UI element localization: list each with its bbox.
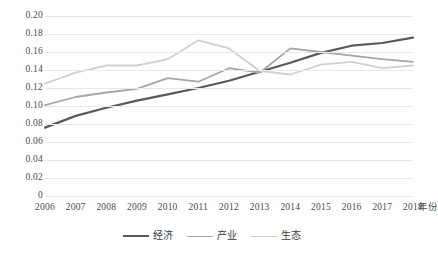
x-axis-tick-label: 2008	[96, 203, 116, 213]
x-axis-tick-label: 2007	[66, 203, 86, 213]
gridline	[45, 142, 413, 143]
x-axis-tick-label: 2016	[342, 203, 362, 213]
gridline	[45, 124, 413, 125]
y-axis-tick-label: 0.12	[3, 83, 43, 93]
legend-item[interactable]: 生态	[251, 231, 301, 241]
legend-label: 经济	[153, 231, 173, 241]
x-axis-tick-label: 2012	[219, 203, 239, 213]
gridline	[45, 70, 413, 71]
legend-swatch	[123, 235, 149, 237]
y-axis-tick-label: 0	[3, 191, 43, 201]
plot-area	[45, 16, 413, 196]
y-axis-tick-label: 0.18	[3, 29, 43, 39]
series-line	[45, 48, 413, 105]
gridline	[45, 34, 413, 35]
x-axis-tick-label: 2017	[372, 203, 392, 213]
y-axis-tick-label: 0.08	[3, 119, 43, 129]
legend-label: 产业	[217, 231, 237, 241]
y-axis: 0.200.180.160.140.120.100.080.060.040.02…	[0, 0, 43, 196]
x-axis-tick-label: 2015	[311, 203, 331, 213]
x-axis-tick-label: 2014	[280, 203, 300, 213]
x-axis-tick-label: 2009	[127, 203, 147, 213]
legend-swatch	[251, 236, 277, 237]
x-axis-tick-label: 2011	[189, 203, 208, 213]
gridline	[45, 88, 413, 89]
gridline	[45, 16, 413, 17]
gridline	[45, 178, 413, 179]
legend-item[interactable]: 产业	[187, 231, 237, 241]
legend: 经济产业生态	[0, 231, 423, 241]
y-axis-tick-label: 0.14	[3, 65, 43, 75]
legend-swatch	[187, 236, 213, 237]
y-axis-tick-label: 0.16	[3, 47, 43, 57]
x-axis-title: 年份	[418, 203, 438, 213]
gridline	[45, 106, 413, 107]
y-axis-tick-label: 0.06	[3, 137, 43, 147]
gridline	[45, 52, 413, 53]
legend-label: 生态	[281, 231, 301, 241]
gridline	[45, 160, 413, 161]
y-axis-tick-label: 0.20	[3, 11, 43, 21]
x-axis: 2006200720082009201020112012201320142015…	[0, 203, 423, 217]
y-axis-tick-label: 0.04	[3, 155, 43, 165]
y-axis-tick-label: 0.02	[3, 173, 43, 183]
legend-item[interactable]: 经济	[123, 231, 173, 241]
x-axis-tick-label: 2010	[158, 203, 178, 213]
x-axis-tick-label: 2006	[35, 203, 55, 213]
y-axis-tick-label: 0.10	[3, 101, 43, 111]
gridline	[45, 196, 413, 197]
series-line	[45, 40, 413, 83]
x-axis-tick-label: 2013	[250, 203, 270, 213]
